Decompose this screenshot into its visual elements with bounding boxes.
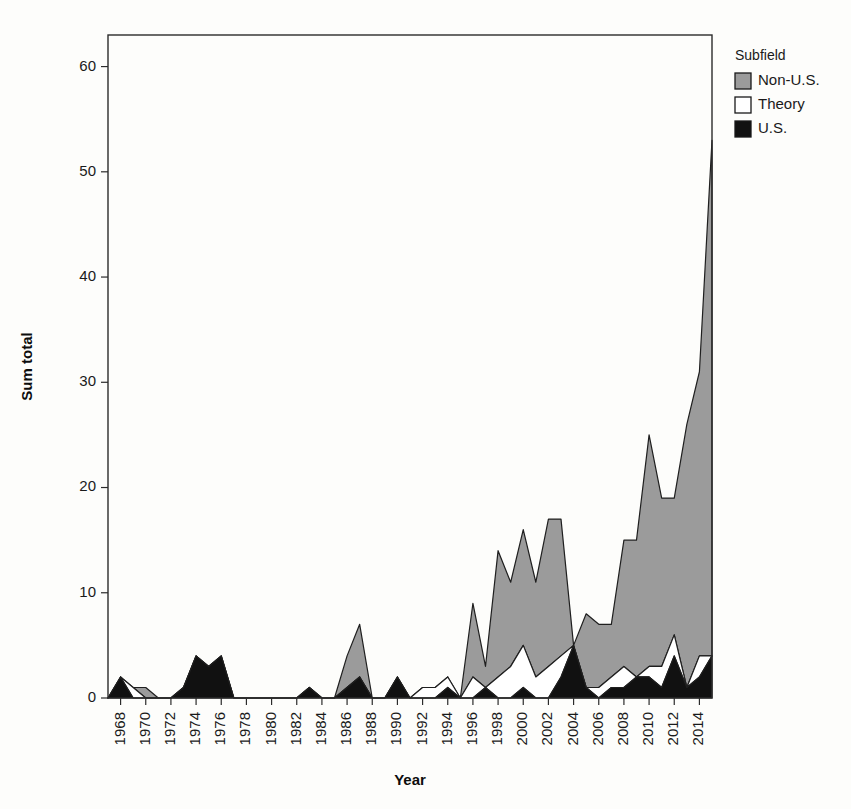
y-tick-label: 0 <box>88 688 96 705</box>
x-tick-label: 2008 <box>614 712 631 745</box>
y-tick-label: 30 <box>79 372 96 389</box>
legend-swatch-non-u-s[interactable] <box>735 73 751 89</box>
x-tick-label: 1980 <box>262 712 279 745</box>
y-tick-label: 20 <box>79 477 96 494</box>
y-axis-title: Sum total <box>18 332 35 400</box>
x-tick-label: 1988 <box>362 712 379 745</box>
x-axis-title: Year <box>394 771 426 788</box>
x-tick-label: 1974 <box>186 712 203 745</box>
x-tick-label: 1990 <box>387 712 404 745</box>
x-tick-label: 1970 <box>136 712 153 745</box>
legend-label-u-s: U.S. <box>758 119 787 136</box>
x-tick-label: 1982 <box>287 712 304 745</box>
area-band-non-u-s <box>108 140 712 698</box>
x-tick-label: 1992 <box>413 712 430 745</box>
legend-label-non-u-s: Non-U.S. <box>758 71 820 88</box>
x-tick-label: 1978 <box>236 712 253 745</box>
x-tick-label: 2010 <box>639 712 656 745</box>
x-tick-label: 2014 <box>689 712 706 745</box>
chart-figure: 0102030405060196819701972197419761978198… <box>0 0 851 809</box>
plot-area: 0102030405060196819701972197419761978198… <box>18 35 820 788</box>
x-tick-label: 2012 <box>664 712 681 745</box>
x-tick-label: 2004 <box>564 712 581 745</box>
y-tick-label: 40 <box>79 267 96 284</box>
x-tick-label: 1996 <box>463 712 480 745</box>
y-tick-label: 50 <box>79 162 96 179</box>
stacked-area-chart: 0102030405060196819701972197419761978198… <box>0 0 851 809</box>
x-tick-label: 2000 <box>513 712 530 745</box>
x-tick-label: 1994 <box>438 712 455 745</box>
y-tick-label: 10 <box>79 583 96 600</box>
legend-swatch-theory[interactable] <box>735 97 751 113</box>
x-tick-label: 1972 <box>161 712 178 745</box>
x-tick-label: 1976 <box>211 712 228 745</box>
x-tick-label: 2002 <box>538 712 555 745</box>
y-tick-label: 60 <box>79 57 96 74</box>
legend-title: Subfield <box>735 47 786 63</box>
legend-label-theory: Theory <box>758 95 805 112</box>
x-tick-label: 1968 <box>111 712 128 745</box>
x-tick-label: 1984 <box>312 712 329 745</box>
x-tick-label: 2006 <box>589 712 606 745</box>
x-tick-label: 1998 <box>488 712 505 745</box>
legend-swatch-u-s[interactable] <box>735 121 751 137</box>
x-tick-label: 1986 <box>337 712 354 745</box>
